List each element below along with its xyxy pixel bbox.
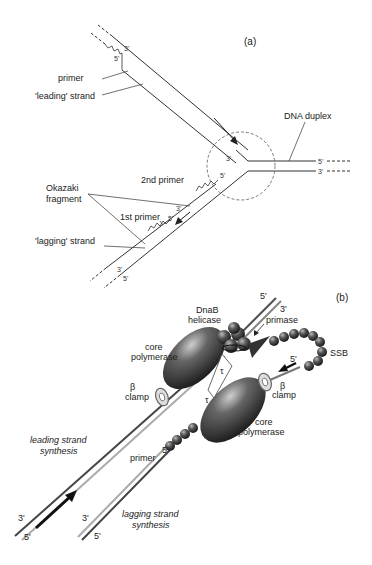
svg-text:5': 5': [24, 532, 31, 542]
fork-highlight-circle: [207, 132, 275, 200]
label-dna-duplex: DNA duplex: [284, 111, 332, 121]
svg-text:polymerase: polymerase: [131, 352, 178, 362]
svg-text:5': 5': [123, 275, 128, 282]
svg-text:3': 3': [176, 205, 181, 212]
svg-text:core: core: [145, 342, 163, 352]
duplex: [236, 150, 352, 171]
svg-text:primer: primer: [130, 453, 156, 463]
svg-text:3': 3': [18, 513, 25, 523]
svg-text:5': 5': [162, 445, 169, 455]
svg-text:3': 3': [226, 155, 231, 162]
label-leading-strand: 'leading' strand: [35, 91, 95, 101]
lower-arm: [90, 171, 248, 288]
label-primer: primer: [58, 73, 84, 83]
svg-text:3': 3': [318, 168, 323, 175]
label-okazaki-2: fragment: [46, 194, 82, 204]
svg-text:β: β: [130, 382, 135, 392]
svg-text:5': 5': [318, 158, 323, 165]
label-first-primer: 1st primer: [120, 212, 160, 222]
dna-replication-figure: (a) 3' 5' 3' 5' 3': [0, 0, 372, 565]
svg-text:lagging strand: lagging strand: [122, 509, 180, 519]
svg-text:polymerase: polymerase: [238, 427, 285, 437]
svg-text:5': 5': [168, 215, 173, 222]
svg-text:3': 3': [82, 513, 89, 523]
primase: [248, 336, 270, 358]
svg-text:3': 3': [124, 45, 129, 52]
svg-text:helicase: helicase: [188, 315, 221, 325]
svg-text:τ: τ: [205, 395, 209, 405]
svg-text:SSB: SSB: [330, 348, 348, 358]
panel-b-tag: (b): [336, 292, 348, 303]
panel-b: (b) 5' 3' τ τ: [15, 291, 348, 542]
svg-text:DnaB: DnaB: [196, 305, 219, 315]
label-lagging-strand: 'lagging' strand: [35, 236, 95, 246]
svg-text:5': 5': [114, 55, 119, 62]
svg-text:3': 3': [280, 304, 287, 314]
label-okazaki-1: Okazaki: [46, 183, 79, 193]
svg-text:core: core: [255, 417, 273, 427]
svg-text:5': 5': [260, 291, 267, 301]
svg-text:leading strand: leading strand: [30, 435, 88, 445]
upper-arm: [91, 25, 248, 163]
label-second-primer: 2nd primer: [141, 175, 184, 185]
svg-text:synthesis: synthesis: [132, 520, 170, 530]
svg-text:5': 5': [290, 354, 297, 364]
svg-text:τ: τ: [220, 366, 224, 376]
svg-text:synthesis: synthesis: [40, 446, 78, 456]
svg-text:5': 5': [220, 172, 225, 179]
svg-text:5': 5': [94, 531, 101, 541]
svg-text:clamp: clamp: [272, 390, 296, 400]
svg-text:clamp: clamp: [125, 392, 149, 402]
svg-text:primase: primase: [266, 315, 298, 325]
panel-a-tag: (a): [244, 36, 256, 47]
svg-text:3': 3': [117, 266, 122, 273]
panel-a: (a) 3' 5' 3' 5' 3': [35, 25, 352, 288]
